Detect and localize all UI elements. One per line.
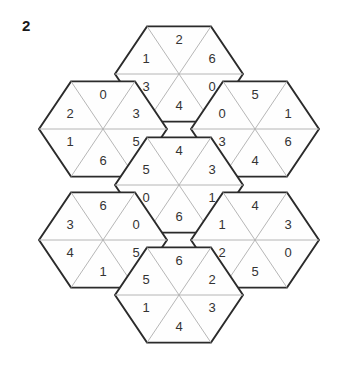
triangle-digit[interactable]: 3: [132, 106, 139, 121]
triangle-digit[interactable]: 1: [142, 300, 149, 315]
triangle-digit[interactable]: 1: [142, 51, 149, 66]
triangle-digit[interactable]: 1: [208, 190, 215, 205]
triangle-digit[interactable]: 6: [208, 51, 215, 66]
triangle-digit[interactable]: 0: [99, 87, 106, 102]
triangle-digit[interactable]: 1: [99, 264, 106, 279]
triangle-digit[interactable]: 3: [142, 79, 149, 94]
triangle-digit[interactable]: 4: [66, 245, 73, 260]
triangle-digit[interactable]: 4: [175, 143, 182, 158]
triangle-digit[interactable]: 0: [218, 106, 225, 121]
hexagon-layer: [39, 26, 319, 342]
triangle-digit[interactable]: 2: [208, 272, 215, 287]
triangle-digit[interactable]: 6: [175, 209, 182, 224]
hexagon-board: 2163040231565013644530166304514132056521…: [0, 0, 358, 374]
triangle-digit[interactable]: 4: [175, 319, 182, 334]
triangle-digit[interactable]: 1: [284, 106, 291, 121]
triangle-digit[interactable]: 6: [99, 198, 106, 213]
triangle-digit[interactable]: 5: [142, 162, 149, 177]
triangle-digit[interactable]: 3: [66, 217, 73, 232]
triangle-digit[interactable]: 3: [284, 217, 291, 232]
triangle-digit[interactable]: 0: [208, 79, 215, 94]
triangle-digit[interactable]: 5: [132, 134, 139, 149]
triangle-digit[interactable]: 0: [284, 245, 291, 260]
triangle-digit[interactable]: 3: [208, 300, 215, 315]
triangle-digit[interactable]: 5: [251, 87, 258, 102]
triangle-digit[interactable]: 4: [175, 98, 182, 113]
triangle-digit[interactable]: 1: [66, 134, 73, 149]
triangle-digit[interactable]: 3: [208, 162, 215, 177]
triangle-digit[interactable]: 4: [251, 198, 258, 213]
triangle-digit[interactable]: 5: [251, 264, 258, 279]
puzzle-container: 2 21630402315650136445301663045141320565…: [0, 0, 358, 374]
triangle-digit[interactable]: 5: [132, 245, 139, 260]
triangle-digit[interactable]: 0: [142, 190, 149, 205]
triangle-digit[interactable]: 6: [99, 153, 106, 168]
triangle-digit[interactable]: 1: [218, 217, 225, 232]
triangle-digit[interactable]: 2: [66, 106, 73, 121]
triangle-digit[interactable]: 4: [251, 153, 258, 168]
triangle-digit[interactable]: 3: [218, 134, 225, 149]
triangle-digit[interactable]: 5: [142, 272, 149, 287]
triangle-digit[interactable]: 2: [218, 245, 225, 260]
triangle-digit[interactable]: 2: [175, 32, 182, 47]
triangle-digit[interactable]: 0: [132, 217, 139, 232]
triangle-digit[interactable]: 6: [175, 253, 182, 268]
triangle-digit[interactable]: 6: [284, 134, 291, 149]
